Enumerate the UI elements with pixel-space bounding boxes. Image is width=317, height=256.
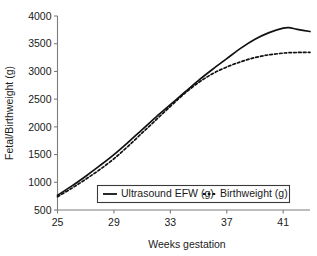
legend-label-ultrasound-efw: Ultrasound EFW (g) (121, 187, 214, 199)
line-chart: 5001000150020002500300035004000 25293337… (0, 0, 317, 256)
x-axis-ticks: 2529333741 (52, 210, 290, 228)
series-ultrasound-efw (58, 28, 311, 196)
chart-legend: Ultrasound EFW (g) Birthweight (g) (98, 186, 290, 203)
legend-label-birthweight: Birthweight (g) (220, 187, 288, 199)
y-tick-label: 500 (34, 204, 52, 216)
y-tick-label: 1000 (28, 176, 52, 188)
y-axis-title: Fetal/Birthweight (g) (3, 66, 15, 160)
y-tick-label: 3500 (28, 37, 52, 49)
y-axis-ticks: 5001000150020002500300035004000 (28, 10, 57, 216)
y-tick-label: 1500 (28, 148, 52, 160)
y-tick-label: 2500 (28, 93, 52, 105)
x-tick-label: 37 (221, 216, 233, 228)
y-tick-label: 4000 (28, 10, 52, 22)
y-tick-label: 3000 (28, 65, 52, 77)
y-tick-label: 2000 (28, 121, 52, 133)
series-birthweight (58, 52, 311, 196)
chart-container: 5001000150020002500300035004000 25293337… (0, 0, 317, 256)
x-axis-title: Weeks gestation (148, 238, 226, 250)
x-tick-label: 29 (108, 216, 120, 228)
x-tick-label: 25 (52, 216, 64, 228)
x-tick-label: 33 (165, 216, 177, 228)
x-tick-label: 41 (277, 216, 289, 228)
